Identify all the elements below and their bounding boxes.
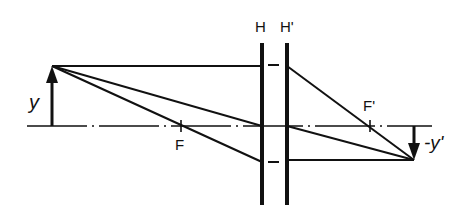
ray-central-outgoing xyxy=(287,126,414,160)
label-principal-plane-h: H xyxy=(255,19,266,34)
ray-diagram xyxy=(0,0,472,208)
label-image-height: -y' xyxy=(424,133,443,152)
label-focal-point-f-prime: F' xyxy=(363,98,375,113)
ray-focal-incoming xyxy=(52,66,262,162)
ray-parallel-outgoing xyxy=(287,66,414,160)
label-principal-plane-h-prime: H' xyxy=(280,19,294,34)
ray-central-incoming xyxy=(52,66,262,126)
label-focal-point-f: F xyxy=(175,137,184,152)
label-object-height: y xyxy=(29,92,39,112)
